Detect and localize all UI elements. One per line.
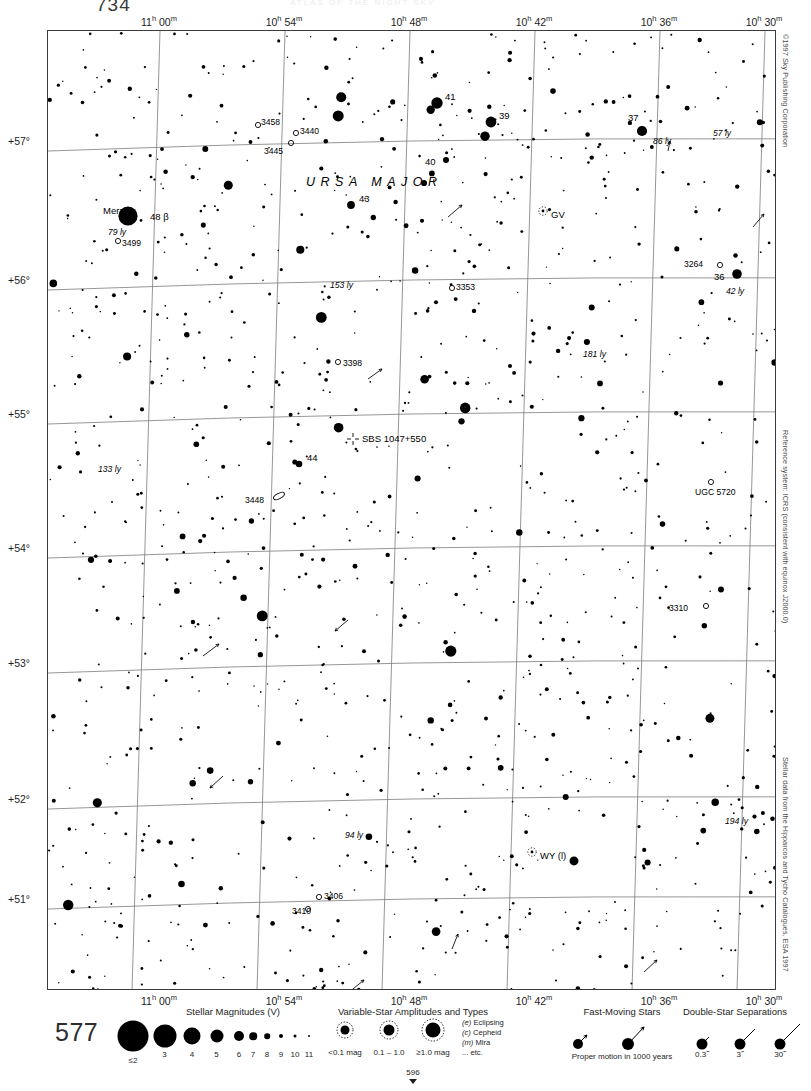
magnitude-label: 8 [265, 1050, 269, 1059]
magnitude-dot [249, 1032, 257, 1040]
magnitude-label: 5 [214, 1050, 218, 1059]
ra-tick-label: 10h 30m [746, 14, 783, 28]
named-star [732, 269, 742, 279]
legend-title-variables: Variable-Star Amplitudes and Types [338, 1006, 488, 1017]
legend-title-doubles: Double-Star Separations [683, 1006, 787, 1017]
chart-legend: 577 Stellar Magnitudes (V) ≤234567891011… [0, 1000, 811, 1091]
sky-chart[interactable]: URSA MAJORURSA MAJORMerak48 β41393740433… [47, 30, 776, 990]
variable-type-row: (m) Mira [462, 1038, 490, 1047]
cluster-marker [115, 238, 120, 243]
distance-label: 194 ly [725, 816, 748, 826]
variable-star-marker [528, 848, 536, 856]
named-star-label: Merak [103, 205, 129, 216]
double-star-label: 30˝ [774, 1050, 786, 1059]
proper-motion-arrow [348, 980, 364, 990]
magnitude-label: 11 [305, 1050, 313, 1059]
named-star [443, 157, 449, 163]
galaxy-marker [272, 491, 285, 501]
cluster-marker [293, 130, 298, 135]
magnitude-dot [118, 1021, 149, 1052]
reference-system-note: Reference system: ICRS (consistent with … [781, 430, 790, 623]
variable-amplitude-glyph [421, 1018, 445, 1046]
dec-tick-label: +51° [8, 893, 30, 905]
ra-tick-label: 11h 00m [141, 14, 177, 28]
galaxy-marker [703, 603, 708, 608]
deep-sky-label: 3264 [684, 259, 703, 269]
deep-sky-label: UGC 5720 [695, 487, 736, 497]
variable-type-row: (c) Cepheid [462, 1028, 501, 1037]
ra-tick-label: 10h 48m [391, 14, 428, 28]
fast-moving-caption: Proper motion in 1000 years [572, 1052, 673, 1061]
quasar-marker [347, 433, 359, 445]
distance-label: 181 ly [583, 349, 606, 359]
variable-amplitude-glyph [333, 1018, 357, 1046]
distance-label: 57 ly [713, 128, 731, 138]
magnitude-label: ≤2 [129, 1056, 138, 1065]
page-number-top: 734 [96, 0, 131, 16]
cluster-marker [288, 140, 293, 145]
variable-star-label: GV [551, 209, 565, 220]
distance-label: 42 ly [726, 286, 744, 296]
variable-amplitude-label: 0.1 – 1.0 [373, 1048, 404, 1057]
magnitude-dot [264, 1033, 270, 1039]
proper-motion-arrow [644, 960, 657, 972]
deep-sky-label: 3310 [669, 603, 688, 613]
proper-motion-arrow [368, 369, 382, 379]
proper-motion-arrow [753, 214, 764, 227]
magnitude-label: 7 [251, 1050, 255, 1059]
magnitude-dot [279, 1034, 283, 1038]
named-star-label: 39 [499, 110, 510, 121]
proper-motion-arrow [452, 934, 458, 949]
magnitude-label: 3 [162, 1050, 166, 1059]
cluster-marker [316, 894, 321, 899]
distance-label: 86 ly [653, 136, 671, 146]
distance-label: 133 ly [98, 464, 121, 474]
cluster-marker [255, 122, 260, 127]
variable-type-row: (e) Eclipsing [462, 1018, 504, 1027]
next-page-arrow-icon [409, 1079, 417, 1084]
magnitude-dot [210, 1030, 223, 1043]
cluster-marker [449, 285, 454, 290]
deep-sky-label: 3499 [122, 238, 141, 248]
named-star-label: 37 [628, 112, 639, 123]
cluster-marker [335, 359, 340, 364]
variable-star-marker [539, 207, 547, 215]
page-header-faint: ATLAS OF THE NIGHT SKY [290, 0, 435, 7]
variable-amplitude-label: ≥1.0 mag [416, 1048, 449, 1057]
dec-tick-label: +56° [8, 274, 30, 286]
next-page-number: 596 [406, 1068, 419, 1077]
deep-sky-label: 3440 [300, 126, 319, 136]
dec-tick-label: +57° [8, 135, 30, 147]
named-star [431, 97, 442, 108]
variable-star-label: WY (l) [540, 850, 566, 861]
variable-amplitude-glyph [377, 1018, 401, 1046]
constellation-label: URSA MAJOR [306, 175, 443, 189]
magnitude-dot [294, 1035, 297, 1038]
double-star-label: 3˝ [736, 1050, 743, 1059]
double-star-label: 0.3˝ [695, 1050, 709, 1059]
deep-sky-label: 3448 [245, 495, 264, 505]
named-star-label: 43 [359, 193, 370, 204]
dec-tick-label: +54° [8, 542, 30, 554]
proper-motion-arrow [203, 644, 219, 656]
distance-label: 79 ly [108, 227, 126, 237]
magnitude-label: 4 [190, 1050, 194, 1059]
named-star [486, 117, 497, 128]
named-star [637, 126, 647, 136]
legend-title-fast-moving: Fast-Moving Stars [583, 1006, 660, 1017]
variable-amplitude-label: <0.1 mag [328, 1048, 362, 1057]
magnitude-dot [308, 1035, 310, 1037]
proper-motion-arrow [335, 620, 348, 631]
deep-sky-label: 3445 [264, 146, 283, 156]
proper-motion-arrow [448, 205, 462, 217]
magnitude-dot [184, 1028, 201, 1045]
cluster-marker [717, 262, 722, 267]
deep-sky-label: 3410 [292, 906, 311, 916]
deep-sky-label: 3406 [324, 891, 343, 901]
dec-tick-label: +52° [8, 793, 30, 805]
dec-tick-label: +53° [8, 657, 30, 669]
copyright-note: ©1997 Sky Publishing Corporation [781, 34, 790, 147]
ra-tick-label: 10h 42m [516, 14, 553, 28]
distance-label: 153 ly [330, 280, 353, 290]
magnitude-dot [234, 1031, 244, 1041]
